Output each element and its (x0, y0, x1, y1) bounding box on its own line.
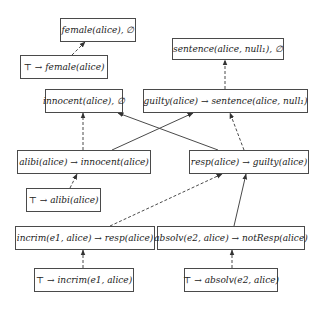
node-female-fact: female(alice), ∅ (60, 18, 136, 42)
edge-n_resp_rule-to-n_innocent_fact (118, 113, 218, 150)
node-label: ⊤ → incrim(e1, alice) (36, 275, 132, 285)
node-label: ⊤ → alibi(alice) (28, 195, 98, 205)
edge-n_alibi_rule-to-n_guilty_rule (112, 113, 193, 150)
node-label: incrim(e1, alice) → resp(alice) (17, 233, 154, 243)
node-label: absolv(e2, alice) → notResp(alice) (154, 233, 308, 243)
node-label: innocent(alice), ∅ (43, 96, 125, 106)
node-top-alibi: ⊤ → alibi(alice) (26, 188, 101, 212)
node-alibi-rule: alibi(alice) → innocent(alice) (17, 150, 151, 174)
node-resp-rule: resp(alice) → guilty(alice) (189, 150, 309, 174)
node-incrim-rule: incrim(e1, alice) → resp(alice) (15, 226, 155, 250)
node-label: guilty(alice) → sentence(alice, null₁) (144, 96, 308, 106)
edge-n_top_alibi-to-n_alibi_rule (70, 174, 77, 188)
edge-n_incrim_rule-to-n_resp_rule (110, 174, 222, 226)
diagram-canvas: female(alice), ∅⊤ → female(alice)sentenc… (0, 0, 322, 311)
edge-n_resp_rule-to-n_guilty_rule (230, 113, 244, 150)
node-label: resp(alice) → guilty(alice) (191, 157, 307, 167)
node-top-female: ⊤ → female(alice) (20, 55, 108, 79)
node-innocent-fact: innocent(alice), ∅ (45, 89, 123, 113)
edge-n_absolv_rule-to-n_resp_rule (234, 174, 246, 226)
node-label: sentence(alice, null₁), ∅ (173, 44, 283, 54)
node-label: ⊤ → absolv(e2, alice) (183, 275, 279, 285)
node-top-absolv: ⊤ → absolv(e2, alice) (184, 268, 278, 292)
node-sentence-fact: sentence(alice, null₁), ∅ (172, 38, 284, 60)
edge-n_top_female-to-n_female_fact (72, 42, 85, 55)
node-label: ⊤ → female(alice) (24, 62, 105, 72)
node-label: female(alice), ∅ (62, 25, 135, 35)
node-guilty-rule: guilty(alice) → sentence(alice, null₁) (143, 89, 308, 113)
node-absolv-rule: absolv(e2, alice) → notResp(alice) (157, 226, 305, 250)
node-label: alibi(alice) → innocent(alice) (19, 157, 149, 167)
node-top-incrim: ⊤ → incrim(e1, alice) (34, 268, 134, 292)
